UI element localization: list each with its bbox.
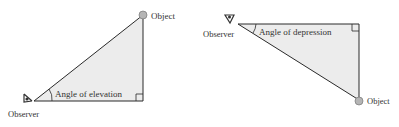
depression-diagram: Angle of depression Object Observer (203, 15, 390, 106)
eye-icon (24, 94, 32, 102)
eye-icon (225, 15, 234, 23)
object-label: Object (367, 96, 390, 106)
object-label: Object (151, 11, 175, 21)
object-circle-icon (355, 97, 363, 105)
object-circle-icon (139, 11, 147, 19)
diagram-canvas: Object Angle of elevation Observer Angle… (0, 0, 399, 127)
angle-label: Angle of elevation (55, 89, 122, 99)
observer-label: Observer (8, 109, 39, 119)
angle-label: Angle of depression (259, 27, 332, 37)
observer-label: Observer (203, 29, 234, 39)
elevation-diagram: Object Angle of elevation Observer (8, 11, 175, 119)
